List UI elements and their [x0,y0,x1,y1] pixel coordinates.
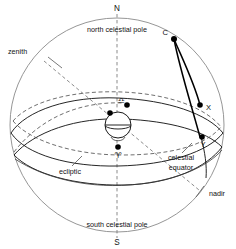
label-celestial-equator-line2: equator [169,163,194,172]
label-zenith: zenith [8,47,27,56]
hour-circle-c-to-y [174,39,200,137]
label-north-cardinal: N [114,4,120,13]
point-y-marker [199,134,205,140]
aries-vernal-equinox-symbol: ♈ [114,151,121,160]
label-point-x: X [206,103,211,112]
nadir-leader-line [196,186,204,197]
label-south-celestial-pole: south celestial pole [86,220,147,229]
label-south-cardinal: S [114,238,120,247]
label-nadir: nadir [209,189,226,198]
libra-autumnal-equinox-symbol: ♎ [117,96,124,105]
celestial-sphere-diagram: N north celestial pole zenith C X Y ♎ ♈ … [0,0,236,249]
hour-circle-c-to-x [174,39,200,105]
label-north-celestial-pole: north celestial pole [87,25,147,34]
vernal-equinox-marker [115,144,121,150]
point-x-marker [197,102,203,108]
ecliptic-node-marker [107,110,113,116]
point-c-marker [171,36,177,42]
label-point-y: Y [200,140,205,149]
label-ecliptic: ecliptic [59,167,81,176]
label-point-c: C [163,28,169,37]
celestial-sphere-canvas: N north celestial pole zenith C X Y ♎ ♈ … [0,0,236,249]
label-celestial-equator-line1: celestial [168,153,194,162]
autumnal-equinox-marker [124,102,130,108]
